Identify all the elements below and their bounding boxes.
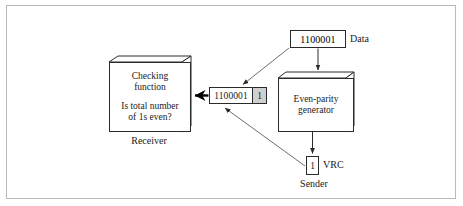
- transmitted-frame-box: 1100001 1: [209, 87, 267, 104]
- receiver-box: Checking function Is total number of 1s …: [103, 56, 191, 132]
- even-parity-generator-box: Even-parity generator: [272, 72, 354, 132]
- receiver-front-face: Checking function Is total number of 1s …: [109, 62, 191, 132]
- generator-label: Even-parity generator: [294, 94, 339, 117]
- parity-question-label: Is total number of 1s even?: [121, 101, 179, 123]
- generator-front-face: Even-parity generator: [278, 78, 354, 132]
- data-box: 1100001: [290, 30, 346, 48]
- checking-function-label: Checking function: [132, 71, 168, 93]
- frame-data-bits: 1100001: [210, 88, 252, 103]
- vrc-bit-box: 1: [306, 156, 319, 175]
- figure-root: 1100001 Data Even-parity generator Check…: [0, 0, 463, 206]
- frame-parity-bit: 1: [252, 88, 266, 103]
